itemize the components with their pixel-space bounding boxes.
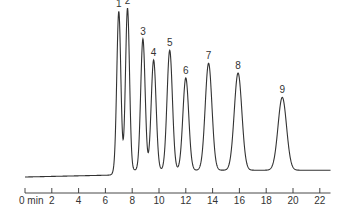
x-tick-label: 4 (76, 195, 82, 206)
x-tick-label: 20 (287, 195, 299, 206)
peak-label-6: 6 (183, 65, 189, 76)
x-tick-label: 22 (314, 195, 326, 206)
peak-label-1: 1 (116, 0, 122, 9)
peak-label-9: 9 (279, 84, 285, 95)
peak-label-4: 4 (151, 47, 157, 58)
chromatogram: 0 min246810121416182022 123456789 (0, 0, 348, 206)
peak-label-5: 5 (167, 37, 173, 48)
x-tick-label: 12 (180, 195, 192, 206)
chromatogram-svg: 0 min246810121416182022 123456789 (0, 0, 348, 206)
peak-label-7: 7 (206, 50, 212, 61)
peak-label-3: 3 (140, 26, 146, 37)
x-tick-label: 14 (207, 195, 219, 206)
x-tick-label: 10 (153, 195, 165, 206)
x-tick-label: 18 (261, 195, 273, 206)
x-tick-label: 6 (103, 195, 109, 206)
peak-label-8: 8 (235, 60, 241, 71)
x-tick-label: 16 (234, 195, 246, 206)
x-axis: 0 min246810121416182022 (19, 188, 331, 206)
x-tick-label: 0 min (19, 195, 43, 206)
peak-label-2: 2 (125, 0, 131, 6)
x-tick-label: 8 (129, 195, 135, 206)
x-tick-label: 2 (49, 195, 55, 206)
